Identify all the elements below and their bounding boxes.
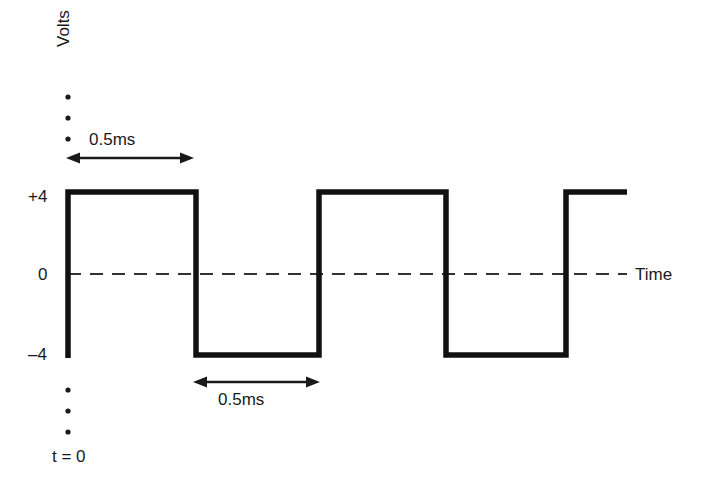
top-interval-arrow xyxy=(66,153,194,164)
x-axis-label: Time xyxy=(635,266,672,283)
bottom-interval-label: 0.5ms xyxy=(218,391,264,408)
bottom-interval-arrow xyxy=(193,377,320,388)
top-ellipsis-dots xyxy=(65,94,70,141)
square-wave-trace xyxy=(68,192,627,358)
y-tick-label-plus4: +4 xyxy=(28,188,47,205)
bottom-ellipsis-dots xyxy=(65,387,70,434)
waveform-svg xyxy=(0,0,701,484)
y-axis-label: Volts xyxy=(55,10,72,47)
y-tick-label-zero: 0 xyxy=(38,266,47,283)
y-tick-label-minus4: –4 xyxy=(28,346,47,363)
top-interval-label: 0.5ms xyxy=(89,131,135,148)
waveform-figure: Volts +4 0 –4 0.5ms 0.5ms t = 0 Time xyxy=(0,0,701,484)
origin-label: t = 0 xyxy=(52,448,86,465)
